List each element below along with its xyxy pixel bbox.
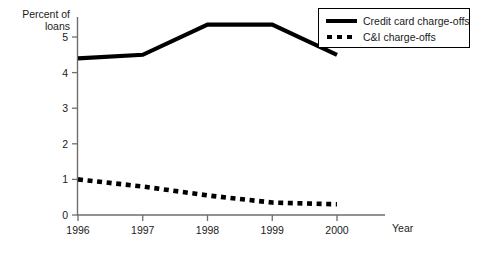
legend-label-credit-card: Credit card charge-offs — [363, 15, 470, 27]
solid-line-swatch-icon — [326, 14, 357, 28]
x-axis-ticks — [78, 215, 337, 221]
dotted-line-swatch-icon — [326, 30, 357, 44]
chart-figure: Percent ofloans Year 5 4 3 2 1 0 1996 19… — [0, 0, 483, 254]
legend-entry-ci: C&I charge-offs — [326, 30, 436, 44]
legend-entry-credit-card: Credit card charge-offs — [326, 14, 470, 28]
data-series-group — [78, 25, 337, 205]
legend: Credit card charge-offs C&I charge-offs — [318, 8, 470, 48]
series-line-credit-card — [78, 25, 337, 59]
legend-label-ci: C&I charge-offs — [363, 31, 436, 43]
series-line-ci — [78, 179, 337, 204]
